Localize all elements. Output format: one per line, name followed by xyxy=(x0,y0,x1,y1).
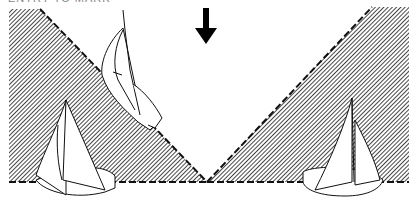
left-hatched-zone xyxy=(9,9,207,182)
diagram xyxy=(0,0,417,206)
right-hatched-zone xyxy=(207,7,409,182)
down-arrow-icon xyxy=(195,8,217,44)
